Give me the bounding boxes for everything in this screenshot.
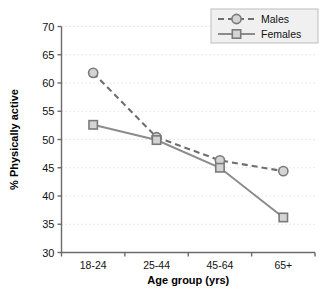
x-category-label: 45-64 [207,259,234,271]
y-axis-title: % Physically active [8,89,20,190]
series-males [89,68,288,176]
chart-container: 30354045505560657018-2425-4445-6465+Age … [0,0,325,302]
y-tick-label: 65 [42,49,54,61]
data-point-females-45-64 [216,164,224,172]
legend-label-females: Females [261,28,301,40]
legend: MalesFemales [211,9,318,43]
legend-marker-males [232,14,241,23]
data-point-females-65+ [279,213,287,221]
data-point-males-65+ [279,167,288,176]
y-tick-label: 50 [42,134,54,146]
x-axis-ticks: 18-2425-4445-6465+ [62,253,316,271]
series-line-females [93,125,283,218]
x-category-label: 65+ [274,259,292,271]
legend-label-males: Males [261,13,289,25]
x-axis-title: Age group (yrs) [147,274,229,286]
y-tick-label: 30 [42,247,54,259]
series-females [89,121,288,222]
x-category-label: 18-24 [80,259,107,271]
data-point-females-18-24 [89,121,97,129]
y-axis-ticks: 303540455055606570 [42,21,61,259]
y-tick-label: 55 [42,105,54,117]
legend-marker-females [232,30,240,38]
y-tick-label: 70 [42,21,54,33]
x-category-label: 25-44 [143,259,170,271]
y-tick-label: 45 [42,162,54,174]
data-point-females-25-44 [152,136,160,144]
axes [62,27,316,253]
series-line-males [93,73,283,171]
y-tick-label: 40 [42,190,54,202]
y-tick-label: 35 [42,218,54,230]
line-chart: 30354045505560657018-2425-4445-6465+Age … [0,0,325,302]
y-tick-label: 60 [42,77,54,89]
data-point-males-18-24 [89,68,98,77]
